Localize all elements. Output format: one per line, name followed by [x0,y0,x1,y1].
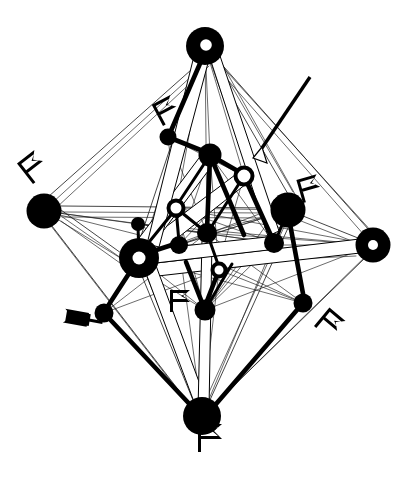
node-inner-c [169,201,184,216]
node-vertex-top [186,27,224,65]
node-vertex-front [119,238,159,278]
node-inner-h [213,264,226,277]
structure-diagram-figure [0,0,407,480]
node-edge-lower-right [294,294,313,313]
node-inner-g [264,233,284,253]
node-inner-i [195,300,216,321]
node-vertex-back [271,193,306,228]
node-edge-lower-left [95,304,114,323]
structure-diagram-canvas [0,0,407,480]
node-vertex-left [27,194,62,229]
node-inner-b [236,168,253,185]
node-inner-d [131,217,145,231]
node-edge-upper-left [160,129,177,146]
node-inner-f [170,236,188,254]
node-inner-a [199,144,222,167]
node-inner-e [197,223,217,243]
node-vertex-right [356,228,391,263]
